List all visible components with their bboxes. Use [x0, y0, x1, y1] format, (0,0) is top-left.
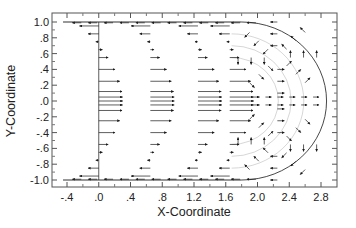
x-tick-label: 2.0: [250, 191, 265, 203]
x-tick-label: .0: [94, 191, 103, 203]
y-tick-label: .6: [40, 48, 49, 60]
x-tick-label: 1.2: [186, 191, 201, 203]
vector-field-chart: -.4.0.4.81.21.62.02.42.8 1.0.8.6.4.2.0-.…: [0, 0, 356, 228]
x-axis-title: X-Coordinate: [157, 205, 231, 219]
y-tick-label: 1.0: [34, 16, 49, 28]
x-tick-label: .4: [126, 191, 135, 203]
x-tick-label: .8: [158, 191, 167, 203]
y-tick-label: .2: [40, 79, 49, 91]
x-tick-label: 2.8: [313, 191, 328, 203]
y-tick-label: .0: [40, 95, 49, 107]
y-tick-label: -.4: [36, 127, 49, 139]
y-tick-label: -.6: [36, 142, 49, 154]
y-tick-label: .8: [40, 32, 49, 44]
x-tick-label: 1.6: [218, 191, 233, 203]
y-tick-label: -.2: [36, 111, 49, 123]
x-tick-label: -.4: [61, 191, 74, 203]
x-tick-label: 2.4: [282, 191, 297, 203]
y-tick-label: -.8: [36, 158, 49, 170]
y-tick-label: -1.0: [30, 174, 49, 186]
velocity-vectors: [72, 22, 319, 180]
y-axis-title: Y-Coordinate: [4, 65, 18, 138]
x-axis: -.4.0.4.81.21.62.02.42.8: [61, 13, 329, 203]
y-tick-label: .4: [40, 63, 49, 75]
